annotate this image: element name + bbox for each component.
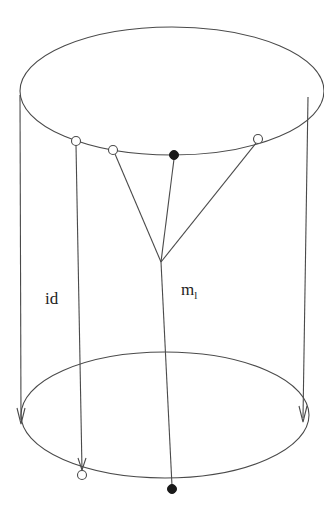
strand-right-to-vertex: [161, 143, 256, 262]
top-point-hollow-1: [72, 137, 81, 146]
strand-middle-to-vertex: [161, 159, 174, 262]
bottom-circle: [21, 352, 309, 478]
top-circle: [20, 27, 324, 155]
label-m: ml: [181, 280, 197, 301]
strand-left-to-vertex: [115, 154, 161, 262]
left-side-line: [20, 95, 21, 420]
vertex-to-bottom-strand: [161, 262, 172, 486]
right-side-line: [303, 97, 308, 418]
bottom-point-hollow: [78, 471, 87, 480]
identity-strand: [76, 145, 82, 470]
top-point-hollow-2: [109, 146, 118, 155]
cylinder-diagram: id ml: [0, 0, 324, 516]
bottom-point-filled: [168, 485, 177, 494]
top-point-hollow-3: [254, 135, 263, 144]
label-m-subscript: l: [194, 289, 197, 301]
label-m-main: m: [181, 280, 194, 299]
top-point-filled: [170, 151, 179, 160]
label-id: id: [45, 289, 59, 308]
